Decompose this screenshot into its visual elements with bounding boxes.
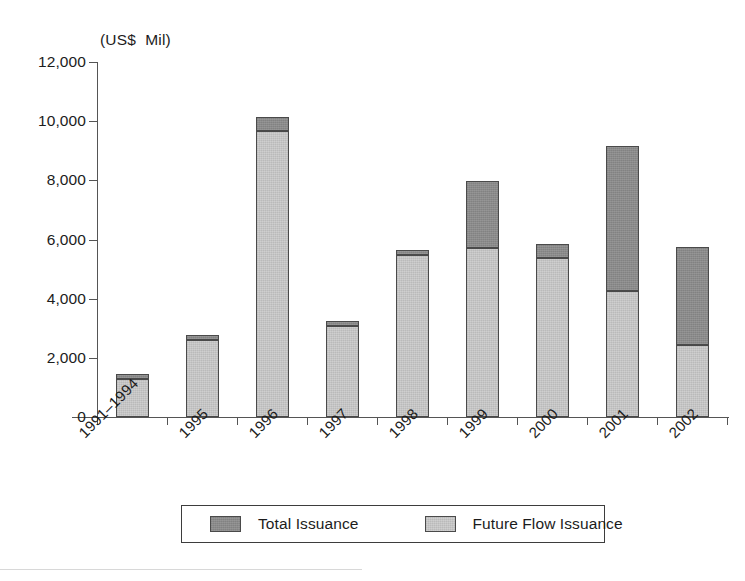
chart-figure: (US$ Mil) 02,0004,0006,0008,00010,00012,… [0,0,745,581]
x-tick-mark [237,417,238,425]
y-tick-mark [89,62,97,63]
y-tick-label: 2,000 [20,349,86,367]
bar-segment-total-issuance [606,146,639,291]
bar-1995 [186,335,219,417]
y-tick-label: 8,000 [20,171,86,189]
bar-segment-future-flow-issuance [396,255,429,417]
y-tick-mark [89,299,97,300]
legend-label: Future Flow Issuance [473,515,623,533]
x-tick-mark [377,417,378,425]
bar-segment-future-flow-issuance [256,131,289,417]
y-axis-units-label: (US$ Mil) [100,31,171,49]
y-tick-mark [89,240,97,241]
bar-segment-total-issuance [256,117,289,131]
y-tick-label: 4,000 [20,290,86,308]
x-tick-mark [657,417,658,425]
bar-1999 [466,181,499,417]
x-tick-mark [167,417,168,425]
y-tick-label: 10,000 [20,112,86,130]
x-tick-mark [727,417,728,425]
bar-2002 [676,247,709,417]
legend-label: Total Issuance [258,515,359,533]
bar-2001 [606,146,639,417]
legend-entry-future-flow-issuance[interactable]: Future Flow Issuance [425,515,623,533]
bar-segment-total-issuance [676,247,709,345]
legend-entry-total-issuance[interactable]: Total Issuance [210,515,359,533]
bar-segment-future-flow-issuance [186,340,219,417]
bar-segment-future-flow-issuance [606,291,639,417]
x-tick-mark [307,417,308,425]
y-tick-mark [89,358,97,359]
bar-1998 [396,250,429,417]
y-tick-mark [89,121,97,122]
bar-segment-future-flow-issuance [676,345,709,417]
legend-swatch-icon [425,516,456,532]
y-tick-mark [89,180,97,181]
plot-area [97,62,727,417]
bar-1996 [256,117,289,417]
x-tick-mark [587,417,588,425]
y-tick-label: 6,000 [20,231,86,249]
bar-segment-total-issuance [466,181,499,248]
y-tick-label: 0 [20,408,86,426]
bar-segment-future-flow-issuance [326,326,359,417]
bar-1997 [326,321,359,417]
scan-artifact-line [0,569,362,570]
bar-segment-future-flow-issuance [536,258,569,417]
bar-segment-total-issuance [536,244,569,258]
legend-swatch-icon [210,516,241,532]
x-tick-mark [517,417,518,425]
y-tick-label: 12,000 [20,53,86,71]
bar-segment-future-flow-issuance [466,248,499,417]
x-tick-mark [447,417,448,425]
bar-2000 [536,244,569,417]
chart-legend: Total IssuanceFuture Flow Issuance [181,505,605,543]
